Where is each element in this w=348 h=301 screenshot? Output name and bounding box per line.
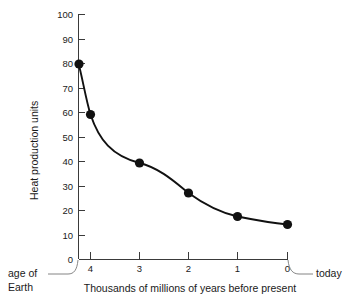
data-point-3 xyxy=(135,158,144,167)
y-tick-label-0: 0 xyxy=(68,254,73,265)
annotation-today: today xyxy=(288,260,342,279)
heat-production-chart: 100 90 80 70 60 50 40 30 20 10 0 4 xyxy=(0,0,348,301)
axes-group xyxy=(79,14,289,260)
x-tick-label-4: 4 xyxy=(88,263,93,274)
x-tick-label-1: 1 xyxy=(235,263,240,274)
y-tick-label-100: 100 xyxy=(57,9,73,20)
y-tick-label-80: 80 xyxy=(62,58,73,69)
heat-production-curve xyxy=(79,64,288,225)
data-point-4 xyxy=(86,110,95,119)
y-tick-label-90: 90 xyxy=(62,34,73,45)
data-point-2 xyxy=(184,188,193,197)
x-tick-label-2: 2 xyxy=(186,263,191,274)
chart-canvas: 100 90 80 70 60 50 40 30 20 10 0 4 xyxy=(0,0,348,301)
y-axis-title: Heat production units xyxy=(28,101,40,200)
y-tick-label-20: 20 xyxy=(62,205,73,216)
y-tick-label-40: 40 xyxy=(62,156,73,167)
age-of-earth-label-line2: Earth xyxy=(8,281,33,293)
data-point-0 xyxy=(283,220,292,229)
today-label: today xyxy=(316,267,342,279)
x-axis-title: Thousands of millions of years before pr… xyxy=(84,282,297,294)
y-tick-label-60: 60 xyxy=(62,107,73,118)
age-of-earth-leader-line xyxy=(48,260,78,274)
y-axis-ticks: 100 90 80 70 60 50 40 30 20 10 0 xyxy=(57,9,85,265)
y-tick-label-10: 10 xyxy=(62,230,73,241)
today-leader-line xyxy=(288,260,313,274)
x-tick-label-3: 3 xyxy=(137,263,142,274)
x-axis-ticks: 4 3 2 1 0 xyxy=(88,252,290,274)
data-point-1 xyxy=(233,212,242,221)
x-tick-label-0: 0 xyxy=(285,263,290,274)
y-tick-label-50: 50 xyxy=(62,132,73,143)
y-tick-label-30: 30 xyxy=(62,181,73,192)
age-of-earth-label-line1: age of xyxy=(8,267,37,279)
y-tick-label-70: 70 xyxy=(62,83,73,94)
data-point-age-of-earth xyxy=(74,59,83,68)
